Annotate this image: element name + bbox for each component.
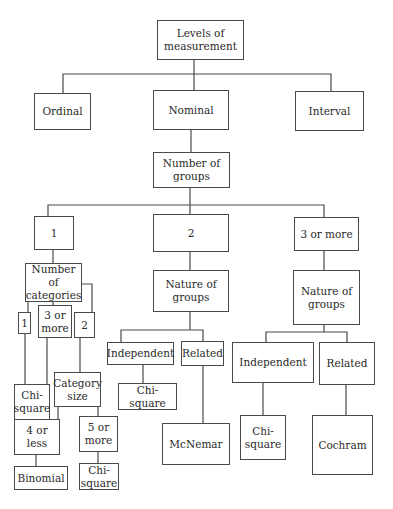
node-nominal: Nominal <box>153 90 229 130</box>
node-categories-3-or-more: 3 or more <box>38 305 72 338</box>
node-chi-square-3: Chi- square <box>240 415 286 460</box>
node-nature-of-groups-3: Nature of groups <box>293 270 360 325</box>
node-related-3: Related <box>319 342 375 385</box>
node-5-or-more: 5 or more <box>79 416 118 452</box>
node-categories-1: 1 <box>18 312 31 334</box>
node-number-of-groups: Number of groups <box>153 152 230 188</box>
node-chi-square-categories: Chi- square <box>14 384 50 420</box>
node-chi-square-size: Chi- square <box>79 463 119 490</box>
node-groups-1: 1 <box>34 216 74 250</box>
node-chi-square-2: Chi- square <box>118 383 177 410</box>
node-independent-2: Independent <box>107 342 174 365</box>
node-mcnemar: McNemar <box>162 423 230 465</box>
node-interval: Interval <box>295 91 364 131</box>
node-nature-of-groups-2: Nature of groups <box>153 270 229 312</box>
node-levels-of-measurement: Levels of measurement <box>157 20 244 60</box>
node-number-of-categories: Number of categories <box>25 263 82 302</box>
node-binomial: Binomial <box>14 466 68 490</box>
node-category-size: Category size <box>54 372 101 407</box>
node-categories-2: 2 <box>74 312 95 338</box>
node-independent-3: Independent <box>232 342 314 383</box>
node-groups-3-or-more: 3 or more <box>294 217 359 251</box>
node-ordinal: Ordinal <box>34 93 91 130</box>
node-related-2: Related <box>181 341 224 366</box>
node-4-or-less: 4 or less <box>14 419 60 455</box>
node-groups-2: 2 <box>153 214 229 252</box>
node-cochram: Cochram <box>312 415 373 475</box>
